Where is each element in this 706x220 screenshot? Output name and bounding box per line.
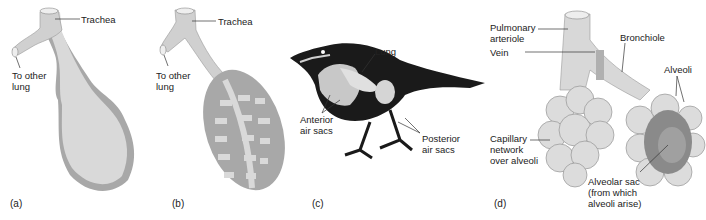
label-lung: Lung [375,46,396,57]
label-to-other-lung-b: To other lung [156,70,190,92]
label-to-other-lung-a: To other lung [12,70,46,92]
panel-label-b: (b) [172,198,184,209]
label-capillary-network: Capillary network over alveoli [490,133,538,166]
panel-a-lung-illustration [12,8,134,191]
label-trachea-a: Trachea [81,14,116,25]
label-anterior-air-sacs: Anterior air sacs [300,114,333,136]
panel-label-a: (a) [10,198,22,209]
label-trachea-b: Trachea [218,16,253,27]
panel-label-c: (c) [312,198,324,209]
panel-b-lung-illustration [160,8,299,201]
label-alveoli: Alveoli [664,64,692,75]
label-posterior-air-sacs: Posterior air sacs [422,133,460,155]
label-vein: Vein [490,47,509,58]
label-pulmonary-arteriole: Pulmonary arteriole [490,22,535,44]
label-alveolar-sac: Alveolar sac (from which alveoli arise) [588,176,641,209]
panel-d-alveoli-illustration [525,11,705,187]
label-bronchiole: Bronchiole [620,32,665,43]
panel-label-d: (d) [494,198,506,209]
